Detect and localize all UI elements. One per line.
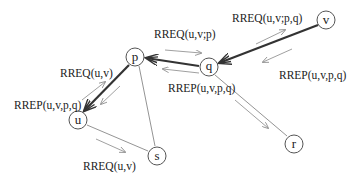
msg-arrow-rrep-q-p — [163, 69, 199, 73]
msg-arrow-rreq-q-v — [256, 30, 285, 44]
node-s: s — [148, 147, 166, 165]
label-rrep-p-u: RREP(u,v,p,q) — [14, 99, 81, 112]
node-v: v — [317, 11, 335, 29]
msg-arrow-rreq-u-s — [96, 139, 125, 152]
label-rreq-p-u: RREQ(u,v) — [60, 67, 113, 80]
node-u: u — [69, 111, 87, 129]
node-label-r: r — [292, 136, 297, 151]
network-diagram: p q v u s r RREQ(u,v;p,q) RREP(u,v,p,q) … — [0, 0, 359, 183]
node-p: p — [126, 48, 144, 66]
node-r: r — [285, 135, 303, 153]
node-label-s: s — [154, 148, 159, 163]
msg-arrow-rrep-q-r — [235, 100, 268, 128]
msg-arrow-rrep-p-u — [101, 86, 120, 104]
node-label-u: u — [75, 112, 82, 127]
node-label-v: v — [323, 12, 330, 27]
msg-arrow-rrep-v-q — [263, 49, 292, 62]
label-rrep-v-q: RREP(u,v,p,q) — [279, 69, 346, 82]
edge-u-s — [87, 125, 148, 151]
route-edge-v-q — [219, 25, 318, 63]
node-q: q — [200, 58, 218, 77]
node-label-q: q — [206, 58, 213, 73]
node-label-p: p — [132, 49, 139, 64]
msg-arrow-rreq-u-p — [82, 82, 105, 100]
edge-p-s — [139, 66, 155, 146]
label-rreq-v-q: RREQ(u,v;p,q) — [232, 12, 302, 25]
label-rreq-q-p: RREQ(u,v;p) — [154, 28, 216, 41]
label-rrep-q-p: RREP(u,v,p,q) — [168, 82, 235, 95]
route-edge-q-p — [146, 58, 199, 66]
label-rreq-u-s: RREQ(u,v) — [83, 160, 136, 173]
msg-arrow-rreq-p-q — [165, 50, 201, 53]
